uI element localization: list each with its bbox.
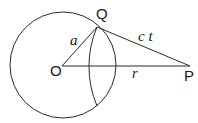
segment-label-a: a <box>70 32 78 48</box>
segment-label-r: r <box>132 65 138 81</box>
geometry-diagram: Q O P a c t r <box>0 0 198 123</box>
point-label-p: P <box>184 67 194 84</box>
segment-label-ct: c t <box>138 28 153 44</box>
point-label-q: Q <box>96 5 108 22</box>
segment-oq <box>62 27 97 66</box>
point-label-o: O <box>50 62 62 79</box>
